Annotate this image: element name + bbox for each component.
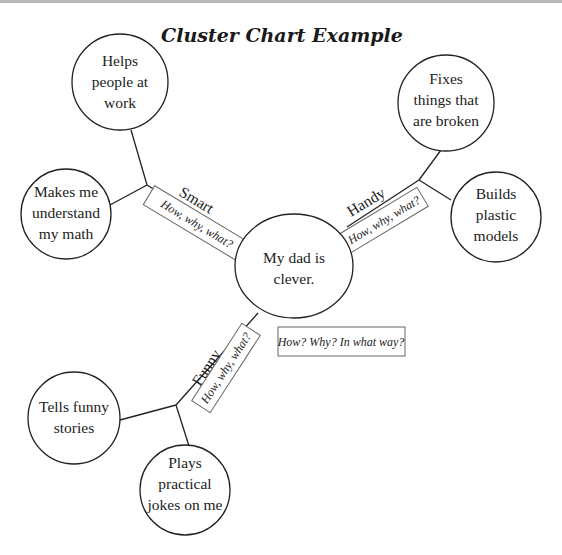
svg-text:Plays: Plays — [168, 454, 202, 471]
chart-title: Cluster Chart Example — [161, 24, 403, 46]
branch-funny: Funny How, why, what? Tells funny storie… — [28, 313, 260, 535]
connector-line — [419, 180, 451, 200]
detail-node: Makes me understand my math — [21, 169, 111, 259]
svg-text:practical: practical — [158, 475, 211, 492]
svg-text:Fixes: Fixes — [429, 70, 463, 87]
svg-text:models: models — [474, 227, 519, 244]
detail-node: Helps people at work — [72, 34, 168, 130]
connector-line — [419, 150, 441, 180]
connector-line — [120, 405, 176, 420]
connector-line — [110, 185, 147, 205]
svg-text:understand: understand — [32, 204, 100, 221]
center-prompt-text: How? Why? In what way? — [277, 335, 405, 349]
detail-node: Fixes things that are broken — [398, 55, 494, 151]
branch-handy: Handy How, why, what? Fixes things that … — [340, 55, 541, 262]
center-prompt-box: How? Why? In what way? — [277, 327, 405, 356]
branch-smart: Smart How, why, what? Helps people at wo… — [21, 34, 251, 262]
svg-text:Helps: Helps — [102, 52, 138, 69]
svg-text:my math: my math — [39, 225, 94, 242]
svg-text:things that: things that — [413, 91, 479, 108]
svg-text:plastic: plastic — [476, 206, 517, 223]
connector-line — [131, 130, 147, 185]
center-node: My dad is clever. — [235, 214, 353, 318]
center-text-line: My dad is — [263, 249, 325, 266]
svg-text:Builds: Builds — [476, 185, 516, 202]
cluster-chart: Cluster Chart Example Smart How, why, wh… — [0, 0, 562, 555]
center-text-line: clever. — [274, 270, 315, 287]
svg-text:people at: people at — [92, 73, 149, 90]
detail-node: Tells funny stories — [28, 372, 120, 464]
svg-text:are broken: are broken — [413, 112, 479, 129]
detail-node: Plays practical jokes on me — [140, 445, 230, 535]
detail-node: Builds plastic models — [451, 172, 541, 262]
svg-text:work: work — [104, 94, 136, 111]
svg-text:Tells funny: Tells funny — [39, 398, 109, 415]
connector-line — [176, 405, 189, 446]
svg-text:stories: stories — [54, 419, 94, 436]
svg-text:jokes on me: jokes on me — [147, 496, 223, 513]
svg-text:Makes me: Makes me — [34, 183, 98, 200]
